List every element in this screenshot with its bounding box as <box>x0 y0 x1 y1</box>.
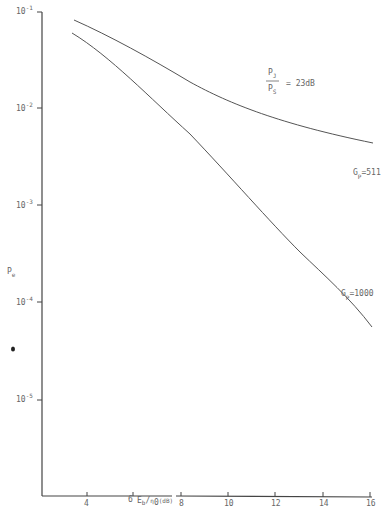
svg-text:= 23dB: = 23dB <box>286 79 315 88</box>
svg-text:4: 4 <box>84 499 89 508</box>
ink-dot <box>11 347 15 352</box>
svg-text:10-2: 10-2 <box>16 101 33 113</box>
svg-text:10-5: 10-5 <box>16 392 33 404</box>
y-tick-labels: 10-1 10-2 10-3 10-4 10-5 <box>16 4 33 404</box>
series-label-gp-1000: GP=1000 <box>341 289 374 301</box>
curve-gp-1000 <box>72 33 372 327</box>
ber-chart: 10-1 10-2 10-3 10-4 10-5 Pe 4 6 8 10 12 … <box>0 0 387 519</box>
ratio-annotation: PJ PS = 23dB <box>266 68 315 95</box>
svg-text:PS: PS <box>268 84 277 95</box>
svg-text:16: 16 <box>366 499 376 508</box>
svg-text:12: 12 <box>271 499 281 508</box>
svg-text:10: 10 <box>224 499 234 508</box>
series-label-gp-511: GP=511 <box>353 168 381 180</box>
svg-text:PJ: PJ <box>268 68 276 79</box>
curve-gp-511 <box>74 20 373 143</box>
svg-text:10-3: 10-3 <box>16 198 33 210</box>
x-axis-right <box>176 496 372 497</box>
svg-text:10-1: 10-1 <box>16 4 33 16</box>
y-ticks <box>37 12 42 400</box>
svg-text:8: 8 <box>179 499 184 508</box>
x-axis-label: Eb/η0(dB) <box>137 496 173 507</box>
svg-text:14: 14 <box>319 499 329 508</box>
svg-text:10-4: 10-4 <box>16 295 33 307</box>
y-axis-label: Pe <box>7 267 16 278</box>
svg-text:6: 6 <box>128 495 133 504</box>
